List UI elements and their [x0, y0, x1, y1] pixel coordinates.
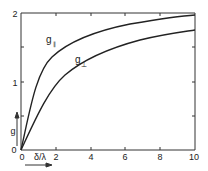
x-tick-0: 0	[19, 152, 24, 162]
x-tick-8: 8	[157, 152, 162, 162]
x-tick-10: 10	[189, 152, 199, 162]
chart: g ∥ g ⊥ 2 1 0 g 0 2 4 6 8 10 δ/λ	[0, 0, 208, 171]
y-tick-2: 2	[12, 9, 17, 19]
x-tick-6: 6	[122, 152, 127, 162]
y-axis-arrow-icon	[15, 112, 19, 146]
y-tick-1: 1	[12, 78, 17, 88]
x-axis-arrow-icon	[25, 163, 52, 167]
y-tick-0: 0	[11, 145, 16, 155]
series-g-parallel-sub: ∥	[53, 41, 56, 48]
x-tick-4: 4	[88, 152, 93, 162]
series-g-perp-label: g	[75, 54, 81, 65]
series-g-perp-line	[21, 30, 195, 150]
series-g-parallel-label: g	[46, 34, 52, 45]
x-axis-label: δ/λ	[34, 152, 47, 162]
series-g-perp-sub: ⊥	[81, 61, 87, 68]
x-tick-2: 2	[53, 152, 58, 162]
y-axis-label: g	[10, 126, 15, 136]
